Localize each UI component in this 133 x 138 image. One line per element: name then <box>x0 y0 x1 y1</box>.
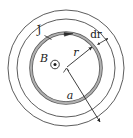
diagram-canvas: J B r dr a <box>0 0 133 138</box>
circle-dot-icon-center <box>54 63 57 66</box>
r-radius-arrow <box>67 47 92 67</box>
label-ring-thickness: dr <box>90 28 103 40</box>
center-vertex-mark <box>64 68 70 73</box>
label-ring-radius: r <box>73 46 79 59</box>
label-conductor-radius: a <box>67 89 74 102</box>
physics-diagram-figure: J B r dr a <box>0 0 133 138</box>
outer-boundary-circle <box>8 10 124 126</box>
label-magnetic-field: B <box>39 52 48 65</box>
